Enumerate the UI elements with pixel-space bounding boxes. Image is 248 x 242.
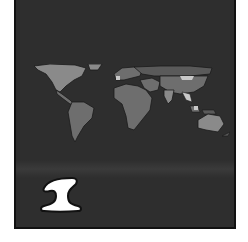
- number-one-icon: [38, 174, 84, 214]
- level-card[interactable]: [14, 0, 236, 229]
- world-map-icon: [30, 64, 230, 144]
